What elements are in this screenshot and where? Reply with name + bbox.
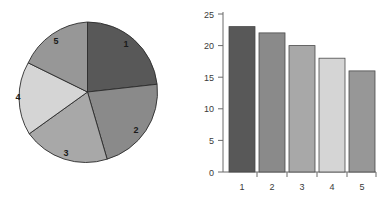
y-tick-label-15: 15 — [204, 73, 214, 83]
y-tick-label-25: 25 — [204, 10, 214, 20]
pie-label-3: 3 — [63, 148, 68, 158]
bar-3[interactable] — [289, 46, 315, 172]
y-tick-label-0: 0 — [209, 168, 214, 178]
x-tick-label-1: 1 — [239, 182, 244, 192]
pie-label-4: 4 — [15, 92, 20, 102]
y-tick-label-10: 10 — [204, 104, 214, 114]
bar-chart-svg: 0 5 10 15 20 25 1 2 3 4 5 — [191, 0, 383, 202]
bar-4[interactable] — [319, 58, 345, 172]
figure-container: 1 2 3 4 5 0 5 10 15 20 25 — [0, 0, 383, 202]
bar-1[interactable] — [229, 27, 255, 172]
x-tick-label-5: 5 — [359, 182, 364, 192]
y-tick-label-5: 5 — [209, 136, 214, 146]
pie-slice-1[interactable] — [88, 22, 158, 92]
bar-chart-panel: 0 5 10 15 20 25 1 2 3 4 5 — [191, 0, 383, 202]
y-tick-label-20: 20 — [204, 41, 214, 51]
x-tick-label-2: 2 — [269, 182, 274, 192]
pie-label-2: 2 — [133, 125, 138, 135]
bar-5[interactable] — [349, 71, 375, 172]
pie-chart-svg: 1 2 3 4 5 — [0, 0, 191, 202]
bar-2[interactable] — [259, 33, 285, 172]
x-tick-label-4: 4 — [329, 182, 334, 192]
pie-label-1: 1 — [123, 39, 128, 49]
pie-label-5: 5 — [53, 36, 58, 46]
x-tick-label-3: 3 — [299, 182, 304, 192]
pie-chart-panel: 1 2 3 4 5 — [0, 0, 191, 202]
